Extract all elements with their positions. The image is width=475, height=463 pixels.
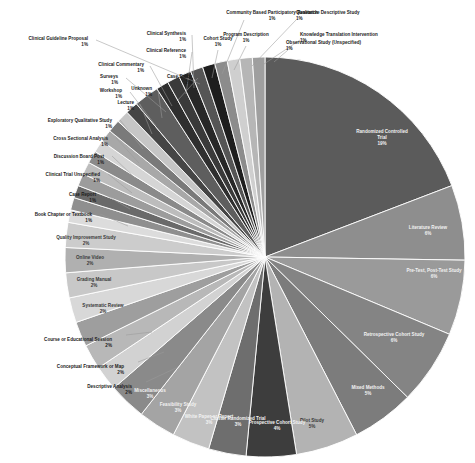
slice-outside-label: Cohort Study1% <box>203 36 233 47</box>
pie-chart-figure: Randomized ControlledTrial19%Literature … <box>0 0 475 463</box>
slice-outside-label: Clinical Guideline Proposal1% <box>29 36 88 47</box>
slice-outside-label: Clinical Commentary1% <box>98 62 144 73</box>
slice-outside-label: Exploratory Qualitative Study1% <box>48 118 113 129</box>
slice-outside-label: Descriptive Analysis2% <box>87 384 132 395</box>
slice-outside-label: Qualitative Descriptive Study1% <box>296 10 360 21</box>
slice-outside-label: Surveys1% <box>100 74 118 85</box>
slice-outside-label: Workshop1% <box>100 88 123 99</box>
slice-outside-label: Discussion Board Post1% <box>54 154 105 165</box>
slice-outside-label: Clinical Synthesis1% <box>147 31 187 42</box>
slice-outside-label: Lecture1% <box>117 100 134 111</box>
slice-outside-label: Observational Study (Unspecified)1% <box>286 40 362 51</box>
slice-outside-label: Clinical Reference1% <box>146 48 186 59</box>
pie-chart-svg: Randomized ControlledTrial19%Literature … <box>0 0 475 463</box>
pie-slices-group <box>65 57 465 457</box>
